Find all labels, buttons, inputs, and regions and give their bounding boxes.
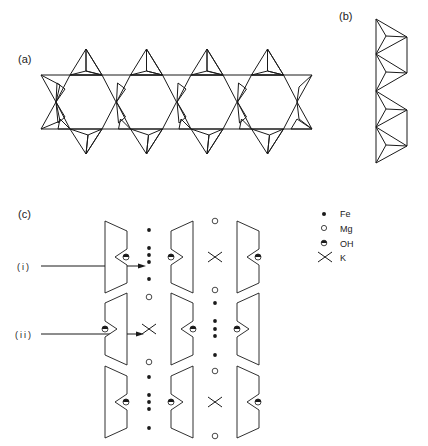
arrow-i-label: (i): [17, 262, 31, 272]
legend-item-mg: Mg: [321, 224, 352, 234]
legend-item-k: K: [318, 252, 346, 263]
panel-c-label: (c): [18, 208, 31, 220]
legend-label-k: K: [340, 253, 346, 263]
legend-item-fe: Fe: [322, 209, 351, 219]
panel-a-label: (a): [18, 53, 31, 65]
mg-circle-icon: [321, 225, 326, 230]
arrow-ii-label: (ii): [15, 330, 33, 340]
panel-b-label: (b): [339, 10, 352, 22]
legend-label-mg: Mg: [340, 224, 353, 234]
oh-half-circle-icon: [321, 240, 327, 246]
legend: Fe Mg OH K: [318, 209, 354, 263]
fe-dot-icon: [322, 212, 326, 216]
k-cross-icon: [318, 252, 332, 262]
legend-label-fe: Fe: [340, 209, 351, 219]
mineral-structure-figure: (a) (b) (c: [0, 0, 428, 446]
tetrahedral-double-chain: [41, 49, 312, 154]
panel-a: (a): [18, 49, 312, 154]
legend-item-oh: OH: [321, 239, 353, 249]
panel-b: (b): [339, 10, 407, 163]
tetrahedral-chain-side-view: [376, 19, 407, 163]
legend-label-oh: OH: [340, 239, 354, 249]
octahedral-sheet-units: [102, 221, 261, 438]
panel-c: (c) (i) (ii): [15, 208, 261, 439]
